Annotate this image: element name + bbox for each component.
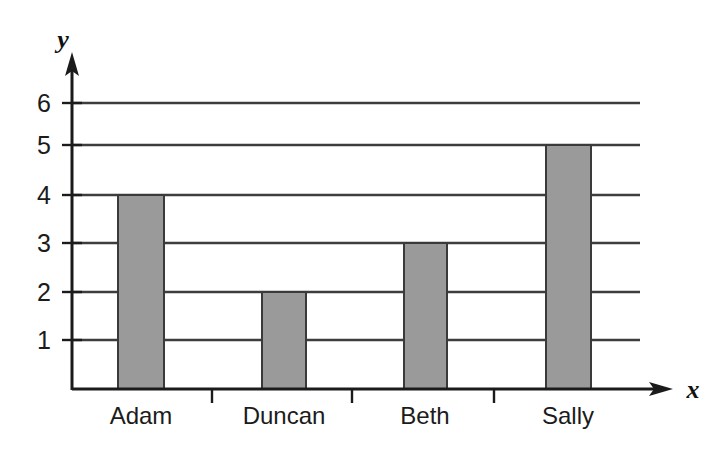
bar-chart-figure: 6 5 4 3 2 1 Adam Duncan Beth Sally y x [0,0,723,455]
category-label-duncan: Duncan [243,402,326,429]
bar-beth[interactable] [404,243,447,389]
y-tick-label-5: 5 [37,131,51,159]
y-tick-label-1: 1 [37,326,51,354]
bar-series [118,145,591,389]
category-labels: Adam Duncan Beth Sally [110,402,594,429]
y-tick-label-2: 2 [37,278,51,306]
bar-duncan[interactable] [262,292,306,389]
x-axis-label: x [686,375,700,404]
y-tick-label-6: 6 [37,89,51,117]
y-tick-labels: 6 5 4 3 2 1 [37,89,51,354]
x-tick-marks [212,389,494,403]
category-label-sally: Sally [542,402,594,429]
bar-adam[interactable] [118,195,164,389]
y-tick-label-3: 3 [37,229,51,257]
category-label-adam: Adam [110,402,173,429]
y-tick-label-4: 4 [37,181,51,209]
category-label-beth: Beth [400,402,449,429]
bar-sally[interactable] [546,145,591,389]
chart-canvas: 6 5 4 3 2 1 Adam Duncan Beth Sally y x [0,0,723,455]
y-axis-label: y [54,25,69,54]
